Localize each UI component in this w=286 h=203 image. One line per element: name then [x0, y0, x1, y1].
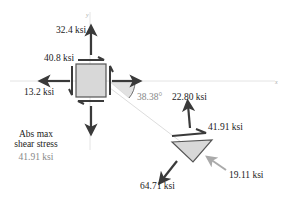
info-title-line1: Abs max	[19, 129, 53, 139]
rotated-normal-top-label: 22.80 ksi	[172, 92, 207, 102]
shear-arrow-top	[78, 57, 104, 60]
info-title-line2: shear stress	[14, 139, 58, 149]
info-value: 41.91 ksi	[19, 152, 54, 162]
rotated-normal-right-label: 19.11 ksi	[229, 170, 264, 180]
rotated-normal-down-arrow	[162, 161, 177, 180]
shear-arrow-bottom	[78, 101, 104, 104]
rotated-shear-arrow	[172, 129, 206, 136]
rotated-shear-label: 41.91 ksi	[208, 122, 243, 132]
x-axis-label: x	[274, 79, 278, 85]
rotated-normal-up-arrow	[188, 105, 190, 128]
stress-diagram: y x 38.38° 32.4 ksi 40.8 ksi 13.2 ksi 22…	[0, 0, 286, 203]
rotated-normal-bottom-label: 64.71 ksi	[140, 181, 175, 191]
tau-xy-label: 40.8 ksi	[44, 53, 74, 63]
sigma-y-label: 32.4 ksi	[56, 25, 86, 35]
stress-element	[76, 64, 106, 97]
sigma-x-label: 13.2 ksi	[24, 87, 54, 97]
angle-label: 38.38°	[137, 92, 162, 102]
rotated-normal-right-arrow	[210, 159, 226, 170]
y-axis-label: y	[85, 12, 89, 18]
rotated-element	[172, 140, 212, 162]
